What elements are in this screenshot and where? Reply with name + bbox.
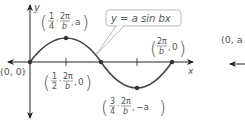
- point-zero: [99, 60, 103, 64]
- svg-text:2π: 2π: [157, 37, 167, 46]
- svg-text:1: 1: [49, 12, 54, 21]
- svg-text:b: b: [159, 47, 164, 56]
- svg-text:2π: 2π: [60, 12, 70, 21]
- function-label: y = a sin bx: [110, 13, 171, 24]
- point-min: [135, 86, 139, 90]
- origin-label: (0, 0): [0, 66, 26, 77]
- callout-pointer: [96, 26, 124, 55]
- svg-text:(: (: [40, 12, 47, 33]
- svg-text:): ): [85, 72, 92, 93]
- right-partial-label: (0, a: [221, 34, 243, 45]
- svg-text:0: 0: [172, 42, 178, 52]
- point-origin: [28, 60, 32, 64]
- svg-text:2π: 2π: [121, 97, 131, 106]
- svg-text:1: 1: [52, 72, 57, 81]
- svg-text:): ): [179, 38, 186, 59]
- svg-text:b: b: [65, 82, 70, 91]
- point-max: [64, 36, 68, 40]
- svg-text:−a: −a: [136, 102, 149, 112]
- sine-graph-diagram: y x (0, 0) y = a sin bx ( 1 4 · 2π b , a…: [0, 0, 245, 124]
- svg-text:·: ·: [59, 77, 62, 86]
- svg-text:2: 2: [52, 82, 57, 91]
- svg-text:b: b: [62, 22, 67, 31]
- svg-text:0: 0: [78, 77, 84, 87]
- max-point-label: ( 1 4 · 2π b , a ): [40, 12, 89, 33]
- zero-point-label: ( 1 2 · 2π b , 0 ): [43, 72, 92, 93]
- svg-text:·: ·: [117, 102, 120, 111]
- min-point-label: ( 3 4 · 2π b , −a ): [101, 97, 166, 118]
- svg-text:,: ,: [168, 43, 171, 52]
- svg-text:): ): [159, 97, 166, 118]
- svg-text:(: (: [150, 38, 157, 59]
- svg-text:4: 4: [110, 107, 115, 116]
- x-axis-label: x: [187, 66, 194, 76]
- svg-text:,: ,: [71, 18, 74, 27]
- svg-text:a: a: [75, 17, 81, 27]
- svg-text:,: ,: [132, 103, 135, 112]
- svg-text:,: ,: [74, 78, 77, 87]
- svg-text:3: 3: [110, 97, 115, 106]
- svg-text:(: (: [101, 97, 108, 118]
- end-point-label: ( 2π b , 0 ): [150, 37, 186, 59]
- svg-text:): ): [82, 12, 89, 33]
- svg-text:4: 4: [49, 22, 54, 31]
- svg-text:2π: 2π: [63, 72, 73, 81]
- svg-text:(: (: [43, 72, 50, 93]
- svg-text:·: ·: [56, 17, 59, 26]
- svg-text:b: b: [123, 107, 128, 116]
- point-end: [170, 60, 174, 64]
